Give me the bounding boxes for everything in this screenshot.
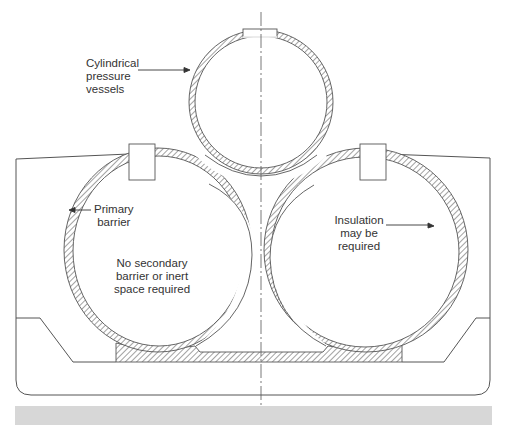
label-no-secondary-barrier: No secondary barrier or inert space requ… xyxy=(112,257,192,296)
label-line: required xyxy=(330,240,388,253)
label-line: Cylindrical xyxy=(86,57,139,70)
label-line: vessels xyxy=(86,83,139,96)
label-line: space required xyxy=(112,283,192,296)
label-line: Primary xyxy=(94,203,134,216)
label-primary-barrier: Primary barrier xyxy=(94,203,134,229)
label-cylindrical-pressure-vessels: Cylindrical pressure vessels xyxy=(86,57,139,96)
label-insulation: Insulation may be required xyxy=(330,214,388,253)
label-line: may be xyxy=(330,227,388,240)
label-line: barrier or inert xyxy=(112,270,192,283)
arrow-head-icon xyxy=(184,68,190,73)
footer-strip xyxy=(15,406,492,425)
tank-cross-section-diagram xyxy=(0,0,507,425)
label-line: pressure xyxy=(86,70,139,83)
label-line: barrier xyxy=(94,216,134,229)
label-line: No secondary xyxy=(112,257,192,270)
label-line: Insulation xyxy=(330,214,388,227)
